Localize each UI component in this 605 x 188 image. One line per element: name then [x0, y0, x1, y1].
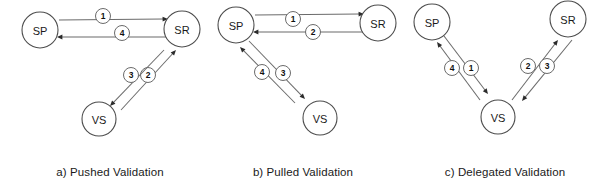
- arrow-head-icon: [57, 35, 62, 40]
- node-label: SP: [229, 20, 244, 32]
- panel-a-step-badge-3: 3: [124, 68, 139, 83]
- panel-c-step-badge-1: 1: [464, 61, 479, 76]
- panel-a-step-badge-1: 1: [96, 9, 111, 24]
- edge-shaft: [255, 14, 360, 15]
- panel-a-step-badge-2: 2: [141, 68, 156, 83]
- diagram-canvas: 1423SPSRVSa) Pushed Validation1234SPSRVS…: [0, 0, 605, 188]
- node-label: SR: [560, 14, 575, 26]
- panel-a-edge-sp-to-sr: 1: [59, 9, 168, 24]
- panel-c-step-badge-4: 4: [445, 61, 460, 76]
- panel-c-caption: c) Delegated Validation: [445, 166, 565, 178]
- step-badge-label: 3: [129, 70, 134, 80]
- step-badge-label: 3: [281, 68, 286, 78]
- node-label: SP: [425, 17, 440, 29]
- step-badge-label: 3: [545, 61, 550, 71]
- node-label: VS: [313, 113, 328, 125]
- panel-c-step-badge-2: 2: [521, 59, 536, 74]
- step-badge-label: 4: [450, 63, 455, 73]
- step-badge-label: 4: [120, 28, 125, 38]
- panel-b-edge-sr-to-sp: 2: [253, 25, 364, 40]
- panel-c-node-sp: SP: [414, 4, 450, 40]
- panel-b-step-badge-1: 1: [286, 12, 301, 27]
- panel-c-node-sr: SR: [550, 1, 586, 37]
- panel-b-node-vs: VS: [303, 101, 337, 135]
- arrow-head-icon: [253, 30, 258, 35]
- panel-b-step-badge-3: 3: [276, 66, 291, 81]
- step-badge-label: 1: [469, 63, 474, 73]
- panel-b-node-sp: SP: [218, 7, 254, 43]
- panel-a-node-vs: VS: [82, 102, 116, 136]
- step-badge-label: 1: [291, 14, 296, 24]
- panel-a-edge-sr-to-vs: 3: [110, 50, 164, 106]
- panel-a-node-sp: SP: [22, 12, 58, 48]
- step-badge-label: 2: [526, 61, 531, 71]
- panel-b-caption: b) Pulled Validation: [253, 166, 353, 178]
- panel-b-step-badge-4: 4: [255, 65, 270, 80]
- node-label: SR: [370, 18, 385, 30]
- step-badge-label: 2: [311, 27, 316, 37]
- node-label: VS: [92, 114, 107, 126]
- panel-b-node-sr: SR: [360, 5, 396, 41]
- panel-a-caption: a) Pushed Validation: [56, 166, 163, 178]
- panel-a-step-badge-4: 4: [115, 26, 130, 41]
- panel-b-step-badge-2: 2: [306, 25, 321, 40]
- step-badge-label: 2: [146, 70, 151, 80]
- panel-c: 1423SPSRVSc) Delegated Validation: [414, 1, 586, 178]
- edge-shaft: [59, 19, 164, 20]
- panel-a: 1423SPSRVSa) Pushed Validation: [22, 9, 200, 179]
- panel-c-step-badge-3: 3: [540, 59, 555, 74]
- arrow-head-icon: [483, 88, 488, 94]
- panel-a-edge-sr-to-sp: 4: [57, 26, 168, 41]
- arrow-head-icon: [437, 42, 442, 48]
- panel-c-node-vs: VS: [481, 100, 515, 134]
- validation-patterns-figure: 1423SPSRVSa) Pushed Validation1234SPSRVS…: [0, 0, 605, 188]
- panel-b: 1234SPSRVSb) Pulled Validation: [218, 5, 396, 178]
- node-label: SR: [174, 24, 189, 36]
- panel-b-edge-sp-to-sr: 1: [255, 12, 364, 27]
- node-label: SP: [33, 25, 48, 37]
- step-badge-label: 1: [101, 11, 106, 21]
- node-label: VS: [491, 112, 506, 124]
- step-badge-label: 4: [260, 67, 265, 77]
- panel-a-node-sr: SR: [164, 11, 200, 47]
